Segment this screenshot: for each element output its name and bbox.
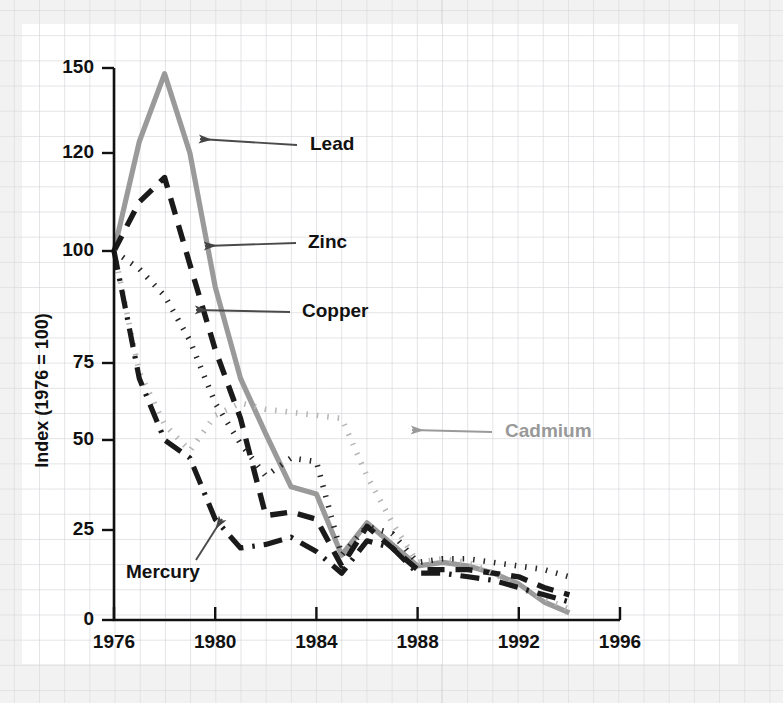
series-line-lead [114, 74, 569, 613]
y-axis-title: Index (1976 = 100) [32, 313, 52, 468]
y-tick-label-25: 25 [73, 518, 95, 539]
y-tick-label-150: 150 [62, 56, 94, 77]
axis-layer [102, 68, 620, 620]
x-tick-label-1992: 1992 [498, 631, 540, 652]
series-label-copper: Copper [302, 300, 369, 321]
x-tick-label-1984: 1984 [295, 631, 338, 652]
x-tick-label-1996: 1996 [599, 631, 641, 652]
series-label-mercury: Mercury [126, 561, 200, 582]
annotation-arrow-mercury [196, 519, 222, 560]
series-label-lead: Lead [310, 133, 354, 154]
y-tick-label-100: 100 [62, 239, 94, 260]
series-layer [114, 74, 569, 613]
y-tick-label-120: 120 [62, 141, 94, 162]
annotation-arrow-cadmium [412, 430, 492, 432]
x-tick-label-1976: 1976 [93, 631, 135, 652]
line-chart: LeadZincCopperCadmiumMercury 02550751001… [0, 0, 783, 703]
annotation-arrow-copper [196, 310, 290, 312]
annotation-arrow-zinc [205, 243, 296, 246]
y-tick-label-75: 75 [73, 351, 95, 372]
chart-stage: LeadZincCopperCadmiumMercury 02550751001… [0, 0, 783, 703]
series-label-zinc: Zinc [308, 231, 347, 252]
y-tick-label-0: 0 [83, 608, 94, 629]
x-tick-label-1988: 1988 [396, 631, 438, 652]
series-label-cadmium: Cadmium [505, 420, 592, 441]
y-tick-label-50: 50 [73, 428, 94, 449]
x-tick-label-1980: 1980 [194, 631, 236, 652]
annotation-arrow-lead [200, 139, 297, 145]
